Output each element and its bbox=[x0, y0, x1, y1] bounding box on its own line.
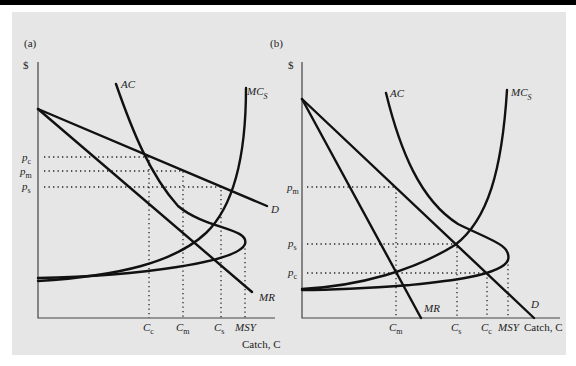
panel-a-d-label: D bbox=[270, 203, 279, 215]
panel-a-x-axis-label: Catch, C bbox=[242, 338, 281, 350]
panel-a-mcs-label: MCS bbox=[246, 85, 268, 101]
panel-b-mr-label: MR bbox=[423, 302, 440, 314]
panel-b-catch-cc: Cc bbox=[481, 321, 492, 336]
panel-b-price-ps: ps bbox=[287, 237, 297, 252]
panel-a-price-ps: ps bbox=[21, 180, 31, 195]
panel-a: (a) $ AC MCS D MR pc pm ps Cc Cm Cs MSY … bbox=[19, 37, 281, 350]
panel-a-label: (a) bbox=[24, 37, 37, 50]
panel-a-catch-cs: Cs bbox=[214, 321, 224, 336]
panel-a-y-axis-label: $ bbox=[23, 59, 29, 71]
panel-a-axes bbox=[38, 62, 275, 318]
panel-b-y-axis-label: $ bbox=[288, 59, 294, 71]
panel-a-guide-pc-cc bbox=[44, 157, 149, 318]
panel-b-mcs-curve bbox=[302, 90, 507, 289]
panel-a-price-pc: pc bbox=[21, 151, 32, 166]
panel-b-catch-msy: MSY bbox=[497, 321, 521, 333]
panel-a-catch-cm: Cm bbox=[176, 321, 190, 336]
panel-b-d-label: D bbox=[530, 298, 539, 310]
panel-b-guide-pm-cm bbox=[307, 187, 396, 318]
panel-b-x-axis-label: Catch, C bbox=[524, 321, 563, 333]
panel-a-ac-curve bbox=[38, 84, 245, 278]
panel-a-mr-label: MR bbox=[258, 291, 275, 303]
panel-b-price-pm: pm bbox=[286, 181, 300, 196]
panel-b: (b) $ AC MCS D MR pm ps pc Cm Cs Cc MSY … bbox=[270, 37, 563, 336]
panel-b-ac-label: AC bbox=[389, 87, 405, 99]
panel-b-catch-cs: Cs bbox=[451, 321, 461, 336]
panel-b-ac-curve bbox=[302, 93, 508, 290]
panel-b-axes bbox=[302, 62, 560, 318]
panel-a-catch-cc: Cc bbox=[143, 321, 154, 336]
panel-b-price-pc: pc bbox=[287, 266, 298, 281]
panel-a-price-pm: pm bbox=[19, 165, 33, 180]
fishery-diagram: (a) $ AC MCS D MR pc pm ps Cc Cm Cs MSY … bbox=[0, 0, 576, 366]
panel-b-catch-cm: Cm bbox=[389, 321, 403, 336]
panel-b-mcs-label: MCS bbox=[510, 86, 532, 102]
panel-b-label: (b) bbox=[270, 37, 283, 50]
panel-a-catch-msy: MSY bbox=[234, 321, 258, 333]
panel-a-guide-ps-cs bbox=[44, 187, 221, 318]
panel-a-guide-pm-cm bbox=[44, 171, 183, 318]
panel-a-ac-label: AC bbox=[120, 78, 136, 90]
